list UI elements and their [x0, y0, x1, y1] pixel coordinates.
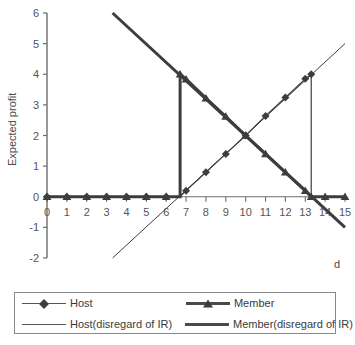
x-axis-tick-label: 2 [84, 206, 90, 218]
legend-label-member: Member [234, 298, 274, 309]
x-axis-tick-label: 15 [339, 206, 351, 218]
diamond-marker-icon [39, 299, 49, 309]
legend-item-member[interactable]: Member [186, 293, 335, 314]
y-axis-tick-label: -2 [29, 252, 39, 264]
legend-item-host[interactable]: Host [15, 293, 186, 314]
legend-sample-member-disregard [185, 318, 229, 332]
plot-area: 6543210-1-20123456789101112131415Expecte… [0, 0, 355, 285]
x-axis-tick-label: 1 [64, 206, 70, 218]
y-axis-tick-label: -1 [29, 221, 39, 233]
line-sample-icon [22, 324, 66, 325]
legend-item-member-disregard-ir[interactable]: Member(disregard of IR) [185, 314, 335, 335]
plot-svg: 6543210-1-20123456789101112131415Expecte… [0, 0, 355, 285]
y-axis-tick-label: 2 [33, 130, 39, 142]
legend-row-1: Host Member [15, 293, 335, 314]
triangle-marker-icon [203, 299, 213, 307]
legend-label-host-disregard-ir: Host(disregard of IR) [70, 319, 172, 330]
legend-sample-host-disregard [22, 318, 66, 332]
x-axis-title: d [334, 258, 340, 270]
x-axis-tick-label: 11 [260, 206, 271, 218]
y-axis-tick-label: 3 [33, 99, 39, 111]
x-axis-tick-label: 9 [223, 206, 229, 218]
x-axis-tick-label: 7 [183, 206, 189, 218]
host-series-line [47, 74, 345, 197]
y-axis-tick-label: 1 [33, 160, 39, 172]
y-axis-tick-label: 5 [33, 38, 39, 50]
x-axis-tick-label: 0 [44, 206, 50, 218]
legend-label-member-disregard-ir: Member(disregard of IR) [233, 319, 353, 330]
x-axis-tick-label: 10 [240, 206, 252, 218]
x-axis-tick-label: 4 [123, 206, 129, 218]
legend-label-host: Host [70, 298, 93, 309]
member-series-line [47, 74, 345, 197]
x-axis-tick-label: 3 [104, 206, 110, 218]
x-axis-tick-label: 6 [163, 206, 169, 218]
x-axis-tick-label: 12 [279, 206, 291, 218]
chart-container: 6543210-1-20123456789101112131415Expecte… [0, 0, 355, 345]
y-axis-tick-label: 4 [33, 68, 39, 80]
legend-sample-host [22, 297, 66, 311]
legend-row-2: Host(disregard of IR) Member(disregard o… [15, 314, 335, 335]
y-axis-title: Expected profit [6, 93, 18, 166]
line-sample-icon [185, 323, 229, 326]
y-axis-tick-label: 0 [33, 191, 39, 203]
legend-item-host-disregard-ir[interactable]: Host(disregard of IR) [15, 314, 185, 335]
x-axis-tick-label: 8 [203, 206, 209, 218]
legend-sample-member [186, 297, 230, 311]
x-axis-tick-label: 13 [299, 206, 311, 218]
x-axis-tick-label: 5 [143, 206, 149, 218]
y-axis-tick-label: 6 [33, 7, 39, 19]
chart-legend: Host Member Host(disregard of IR) [14, 292, 336, 334]
